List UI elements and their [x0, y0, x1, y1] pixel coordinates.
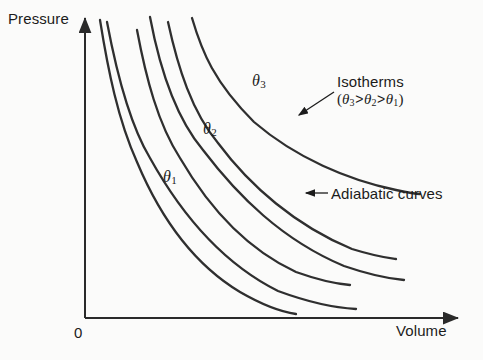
isotherms-title: Isotherms	[337, 73, 404, 90]
curve-label-theta2: θ2	[203, 120, 217, 139]
theta3-symbol: θ	[252, 72, 260, 89]
origin-label: 0	[74, 324, 82, 341]
isotherm-curve-theta2	[150, 17, 404, 280]
adiabatic-callout: Adiabatic curves	[331, 185, 443, 202]
x-axis-label: Volume	[396, 322, 447, 339]
relation-theta3: θ	[342, 91, 349, 107]
theta2-subscript: 2	[211, 126, 217, 138]
theta1-subscript: 1	[171, 174, 177, 186]
isotherms-callout: Isotherms (θ3>θ2>θ1)	[337, 73, 404, 109]
isotherms-relation: (θ3>θ2>θ1)	[337, 91, 404, 109]
curve-group	[100, 17, 420, 314]
adiabat-curve-3	[168, 22, 396, 259]
callout-arrows	[299, 92, 334, 193]
curve-label-theta1: θ1	[163, 168, 177, 187]
theta3-subscript: 3	[260, 78, 266, 90]
relation-close-paren: )	[398, 91, 403, 107]
relation-theta2-subscript: 2	[371, 97, 376, 108]
relation-greater-2: >	[377, 91, 386, 107]
curve-label-theta3: θ3	[252, 72, 266, 91]
axis-lines	[85, 18, 458, 318]
theta1-symbol: θ	[163, 168, 171, 185]
relation-theta3-subscript: 3	[350, 97, 355, 108]
isotherms-arrow	[299, 92, 334, 115]
relation-greater-1: >	[355, 91, 364, 107]
pv-diagram-figure: Pressure Volume 0 θ1 θ2 θ3 Isotherms (θ3…	[0, 0, 483, 360]
adiabat-curve-2	[137, 30, 350, 285]
y-axis-label: Pressure	[8, 10, 69, 27]
adiabat-curve-1	[100, 20, 296, 314]
theta2-symbol: θ	[203, 120, 211, 137]
plot-canvas	[0, 0, 483, 360]
